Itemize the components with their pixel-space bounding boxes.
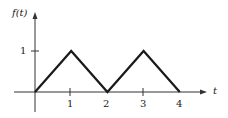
x-tick-label-2: 2 — [103, 99, 109, 109]
chart: f(t) 1 1 2 3 4 t — [0, 0, 228, 118]
x-tick-label-3: 3 — [140, 99, 146, 109]
y-tick-label-1: 1 — [20, 46, 26, 56]
plot-area — [0, 0, 228, 118]
x-tick-label-1: 1 — [67, 99, 73, 109]
x-axis-arrow-icon — [200, 90, 207, 95]
y-axis-label: f(t) — [12, 8, 28, 18]
data-line — [35, 51, 180, 92]
x-tick-label-4: 4 — [176, 99, 182, 109]
x-axis-label: t — [213, 86, 217, 96]
y-axis-arrow-icon — [33, 12, 38, 19]
